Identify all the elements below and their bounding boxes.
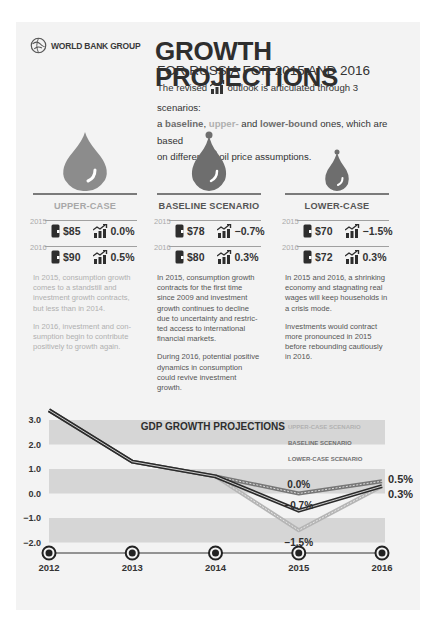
y-tick-label: 3.0	[28, 415, 41, 425]
row-divider	[297, 220, 389, 221]
x-tick-label: 2016	[371, 562, 392, 573]
scenario-name: LOWER-CASE	[285, 201, 389, 215]
description-paragraph: Investments would contract more pronounc…	[285, 322, 389, 363]
intro-upper: upper-	[209, 118, 239, 129]
oil-price: $90	[63, 251, 81, 263]
oil-barrel-icon	[175, 250, 184, 264]
x-tick-label: 2015	[288, 562, 310, 573]
y-tick-label: −1.0	[23, 513, 41, 523]
oil-barrel-icon	[303, 250, 312, 264]
growth-chart-icon	[217, 224, 232, 238]
scenario-upper-case: UPPER-CASE 2015 $85 0.0% 2016 $90 0.5% I…	[33, 130, 137, 360]
growth-chart-icon	[93, 250, 108, 264]
row-divider	[297, 246, 389, 247]
data-label: 0.0%	[287, 479, 310, 490]
data-label: −0.7%	[284, 500, 313, 511]
growth-chart-icon	[210, 80, 225, 100]
y-tick-label: 1.0	[28, 464, 41, 474]
year-label: 2016	[282, 243, 299, 252]
year-label: 2015	[154, 217, 171, 226]
growth-value: 0.0%	[111, 225, 135, 237]
intro-part: a	[157, 118, 162, 129]
year-label: 2015	[282, 217, 299, 226]
intro-part: The revised	[157, 82, 207, 93]
oil-barrel-icon	[303, 224, 312, 238]
timeline-marker-dot	[129, 550, 136, 557]
legend-entry: UPPER-CASE SCENARIO	[288, 424, 361, 430]
intro-baseline: baseline	[165, 118, 203, 129]
scenario-name: BASELINE SCENARIO	[157, 201, 261, 215]
y-tick-label: 2.0	[28, 440, 41, 450]
scenario-description: In 2015, consumption growth contracts fo…	[157, 273, 261, 393]
oil-price: $85	[63, 225, 81, 237]
column-divider	[285, 193, 389, 195]
year-label: 2016	[30, 243, 47, 252]
growth-value: 0.3%	[235, 251, 259, 263]
timeline-marker-dot	[295, 550, 302, 557]
oil-drop-icon	[57, 130, 113, 192]
timeline-marker-dot	[212, 550, 219, 557]
year-row: 2016 $90 0.5%	[33, 243, 137, 267]
row-divider	[45, 220, 137, 221]
scenario-lower-case: LOWER-CASE 2015 $70 −1.5% 2016 $72 0.3% …	[285, 130, 389, 371]
legend-entry: LOWER-CASE SCENARIO	[288, 456, 363, 462]
year-row: 2016 $72 0.3%	[285, 243, 389, 267]
scenario-name: UPPER-CASE	[33, 201, 137, 215]
y-tick-label: 0.0	[28, 489, 41, 499]
column-divider	[157, 193, 261, 195]
row-divider	[45, 246, 137, 247]
oil-price: $72	[315, 251, 333, 263]
growth-chart-icon	[217, 250, 232, 264]
oil-drop-icon	[187, 130, 231, 192]
oil-drop-icon	[321, 148, 353, 192]
row-divider	[169, 220, 261, 221]
row-divider	[169, 246, 261, 247]
x-tick-label: 2014	[205, 562, 227, 573]
description-paragraph: In 2015, consumption growth contracts fo…	[157, 273, 261, 344]
page-subtitle: FOR RUSSIA FOR 2015 AND 2016	[157, 63, 370, 79]
growth-chart-icon	[93, 224, 108, 238]
oil-price: $78	[187, 225, 205, 237]
scenario-description: In 2015 and 2016, a shrinking economy an…	[285, 273, 389, 363]
grid-band	[49, 518, 385, 543]
logo-text: WORLD BANK GROUP	[51, 41, 140, 51]
scenario-description: In 2015, consumption growth comes to a s…	[33, 273, 137, 352]
year-label: 2015	[30, 217, 47, 226]
year-row: 2015 $78 −0.7%	[157, 217, 261, 241]
scenario-baseline: BASELINE SCENARIO 2015 $78 −0.7% 2016 $8…	[157, 130, 261, 401]
growth-value: 0.3%	[363, 251, 387, 263]
chart-svg: 3.02.01.00.0−1.0−2.0GDP GROWTH PROJECTIO…	[0, 385, 436, 585]
year-row: 2016 $80 0.3%	[157, 243, 261, 267]
data-label: 0.3%	[388, 488, 413, 500]
world-bank-logo: WORLD BANK GROUP	[30, 37, 140, 54]
x-tick-label: 2012	[38, 562, 59, 573]
gdp-growth-chart: 3.02.01.00.0−1.0−2.0GDP GROWTH PROJECTIO…	[0, 385, 436, 585]
intro-part: ,	[203, 118, 206, 129]
oil-barrel-icon	[175, 224, 184, 238]
growth-value: −0.7%	[235, 225, 265, 237]
data-label: 0.5%	[388, 473, 413, 485]
oil-price: $80	[187, 251, 205, 263]
description-paragraph: In 2015, consumption growth comes to a s…	[33, 273, 137, 314]
timeline-marker-dot	[46, 550, 53, 557]
timeline-marker-dot	[379, 550, 386, 557]
growth-value: 0.5%	[111, 251, 135, 263]
chart-title: GDP GROWTH PROJECTIONS	[141, 421, 286, 432]
legend-entry: BASELINE SCENARIO	[288, 440, 352, 446]
intro-part: and	[241, 118, 257, 129]
globe-icon	[30, 37, 47, 54]
year-label: 2016	[154, 243, 171, 252]
description-paragraph: In 2015 and 2016, a shrinking economy an…	[285, 273, 389, 314]
column-divider	[33, 193, 137, 195]
description-paragraph: In 2016, investment and con-sumption beg…	[33, 322, 137, 353]
growth-value: −1.5%	[363, 225, 393, 237]
y-tick-label: −2.0	[23, 538, 41, 548]
oil-barrel-icon	[51, 250, 60, 264]
year-row: 2015 $70 −1.5%	[285, 217, 389, 241]
x-tick-label: 2013	[122, 562, 143, 573]
year-row: 2015 $85 0.0%	[33, 217, 137, 241]
oil-barrel-icon	[51, 224, 60, 238]
growth-chart-icon	[345, 250, 360, 264]
intro-lower: lower-bound	[260, 118, 318, 129]
growth-chart-icon	[345, 224, 360, 238]
